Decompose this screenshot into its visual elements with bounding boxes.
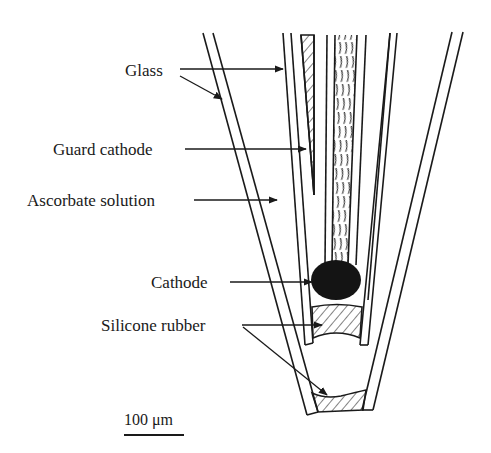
electrode-diagram	[0, 0, 491, 453]
upper-silicone-plug	[312, 305, 362, 339]
central-rod	[325, 35, 366, 265]
label-guard-cathode: Guard cathode	[53, 141, 153, 158]
scale-bar-label: 100 μm	[124, 412, 173, 428]
label-cathode: Cathode	[151, 274, 208, 291]
label-silicone-rubber: Silicone rubber	[101, 317, 205, 334]
mid-glass-wall	[368, 33, 390, 300]
cathode-bead	[311, 260, 361, 300]
guard-cathode	[301, 35, 314, 195]
label-glass: Glass	[125, 62, 163, 79]
label-ascorbate-solution: Ascorbate solution	[27, 192, 155, 209]
lower-silicone-plug	[312, 390, 366, 412]
